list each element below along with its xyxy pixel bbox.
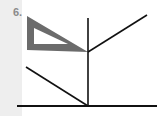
set-square-triangle (27, 16, 88, 52)
lower-diagonal-line (26, 67, 88, 106)
geometry-figure (0, 0, 160, 116)
upper-diagonal-line (88, 15, 147, 52)
